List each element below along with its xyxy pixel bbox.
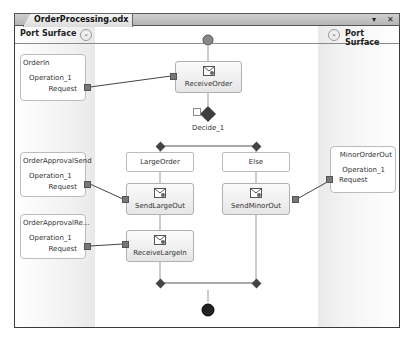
branch-large-order[interactable]: LargeOrder: [126, 152, 194, 172]
shape-label: SendMinorOut: [223, 202, 289, 210]
port-operation: Operation_1: [29, 234, 72, 242]
port-connector-icon[interactable]: [84, 84, 91, 91]
shape-decide[interactable]: [200, 106, 216, 122]
port-message: Request: [49, 85, 77, 93]
shape-label: SendLargeOut: [127, 202, 193, 210]
port-message: Request: [49, 183, 77, 191]
send-envelope-icon: [250, 188, 262, 198]
port-operation: Operation_1: [342, 166, 385, 174]
shape-label: ReceiveLargeIn: [127, 249, 193, 257]
port-message: Request: [339, 176, 367, 184]
port-connector-icon[interactable]: [84, 243, 91, 250]
port-connector-icon[interactable]: [122, 241, 129, 248]
port-message: Request: [49, 245, 77, 253]
port-operation: Operation_1: [29, 172, 72, 180]
port-connector-icon[interactable]: [122, 196, 129, 203]
port-connector-icon[interactable]: [84, 181, 91, 188]
receive-envelope-icon: [203, 66, 215, 76]
port-connector-icon[interactable]: [326, 176, 333, 183]
port-name: OrderApprovalRe...: [23, 219, 89, 227]
shape-receive-large-in[interactable]: ReceiveLargeIn: [126, 230, 194, 262]
port-order-approval-send[interactable]: OrderApprovalSend Operation_1 Request: [20, 152, 86, 197]
end-shape[interactable]: [202, 304, 214, 316]
send-envelope-icon: [154, 188, 166, 198]
port-order-approval-receive[interactable]: OrderApprovalRe... Operation_1 Request: [20, 214, 86, 259]
start-shape[interactable]: [203, 35, 213, 45]
branch-else[interactable]: Else: [222, 152, 290, 172]
receive-envelope-icon: [154, 235, 166, 245]
port-connector-icon[interactable]: [292, 196, 299, 203]
shape-receive-order[interactable]: ReceiveOrder: [175, 61, 242, 93]
port-order-in[interactable]: OrderIn Operation_1 Request: [20, 54, 86, 101]
port-minor-order-out[interactable]: MinorOrderOut Operation_1 Request: [330, 146, 396, 193]
decide-label: Decide_1: [192, 124, 224, 132]
port-name: OrderIn: [23, 59, 49, 67]
shape-send-minor-out[interactable]: SendMinorOut: [222, 183, 290, 215]
port-connector-icon[interactable]: [170, 73, 177, 80]
port-name: MinorOrderOut: [340, 151, 392, 159]
shape-send-large-out[interactable]: SendLargeOut: [126, 183, 194, 215]
port-name: OrderApprovalSend: [23, 157, 92, 165]
port-operation: Operation_1: [29, 74, 72, 82]
shape-label: ReceiveOrder: [176, 80, 241, 88]
